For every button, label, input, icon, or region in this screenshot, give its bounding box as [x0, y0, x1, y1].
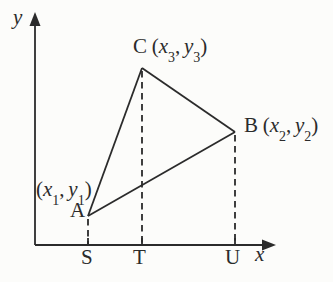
foot-label-u: U: [225, 247, 240, 268]
coord-close-paren-b: ): [311, 113, 318, 137]
coord-open-paren-c: (: [152, 34, 159, 58]
coord-close-paren-c: ): [200, 34, 207, 58]
y-axis-arrowhead: [30, 12, 41, 26]
coord-comma-c: ,: [175, 34, 180, 58]
coord-open-paren-a: (: [36, 177, 43, 201]
coord-y-var-c: y: [184, 34, 193, 58]
y-axis-label: y: [13, 7, 22, 28]
x-axis-label: x: [255, 244, 264, 265]
foot-label-t: T: [133, 247, 146, 268]
foot-label-s: S: [81, 247, 93, 268]
coord-y-sub-b: 2: [304, 129, 311, 144]
triangle-coordinate-diagram: y x C(x3,y3) B(x2,y2) (x1,y1) A S T U: [0, 0, 333, 282]
vertex-letter-a: A: [70, 200, 85, 221]
point-label-c: C(x3,y3): [133, 36, 207, 57]
coord-x-sub-a: 1: [52, 193, 59, 208]
coord-open-paren-b: (: [263, 113, 270, 137]
triangle-side-ac: [88, 68, 142, 216]
triangle-side-ab: [88, 132, 235, 216]
coord-y-sub-c: 3: [193, 50, 200, 65]
vertex-letter-c: C: [133, 34, 147, 58]
coord-x-sub-b: 2: [279, 129, 286, 144]
coord-x-sub-c: 3: [168, 50, 175, 65]
coord-comma-a: ,: [59, 177, 64, 201]
coord-x-var-b: x: [270, 113, 279, 137]
coord-y-var-b: y: [295, 113, 304, 137]
coord-comma-b: ,: [286, 113, 291, 137]
coord-x-var-a: x: [43, 177, 52, 201]
coord-close-paren-a: ): [85, 177, 92, 201]
point-coord-label-a: (x1,y1): [36, 179, 92, 200]
point-label-b: B(x2,y2): [244, 115, 318, 136]
coord-x-var-c: x: [159, 34, 168, 58]
triangle-side-cb: [142, 68, 235, 132]
vertex-letter-b: B: [244, 113, 258, 137]
